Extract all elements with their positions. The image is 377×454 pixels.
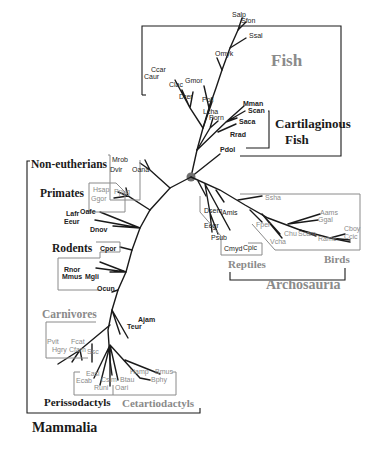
taxon-label: Saca [239,118,255,125]
taxon-label: Mgli [85,273,99,281]
murid-branch [96,262,126,272]
taxon-label: Ocun [97,285,115,292]
taxon-label: Vcha [270,238,286,245]
taxon-label: Gmor [185,77,203,84]
group-label-cartilaginous: Cartilaginous [275,116,351,131]
taxon-label: Ppyg [114,188,130,196]
taxon-label: Mmus [62,273,82,280]
group-label-carnivores: Carnivores [42,308,97,320]
taxon-label: Hgry [52,346,67,354]
taxon-label: Ggal [318,216,333,224]
taxon-label: Rame [318,235,337,242]
group-label-cetartiodactyls: Cetartiodactyls [122,397,195,409]
ssha-branch [238,196,262,200]
taxon-label: Ccar [151,66,166,73]
taxon-label: Scam [298,230,316,237]
taxon-label: Cfam [69,346,86,353]
taxon-label: Cpor [100,245,117,253]
taxon-label: Fper [256,221,271,229]
non-eutherian-branch [140,160,170,188]
taxon-label: Eegr [204,222,219,230]
cartilaginous-bracket [246,111,269,148]
taxon-label: Bphy [151,376,167,384]
taxon-label: Cboy [344,225,361,233]
taxon-label: Pvit [47,338,59,345]
taxon-label: Porn [209,114,224,121]
taxon-label: Rnor [64,266,81,273]
taxon-label: Mrob [112,156,128,163]
cpor-branch [120,247,132,250]
taxon-label: Csim [101,376,117,383]
taxon-label: Clac [169,81,184,88]
taxon-label: Dsem [204,207,222,214]
taxon-label: Drer [179,93,193,100]
phylogenetic-tree: Fish Cartilaginous Fish Salp Sfon Ssal O… [0,0,377,454]
taxon-label: Amis [222,209,238,216]
taxon-label: Cmyd [224,245,242,253]
group-label-fish: Fish [271,51,303,70]
taxon-label: Hamp [130,368,149,376]
taxon-label: Bmus [155,368,173,375]
group-label-rodents: Rodents [52,242,93,254]
taxon-label: Pdol [220,146,235,153]
group-label-archosauria: Archosauria [266,277,340,292]
taxon-label: Caur [144,73,160,80]
taxon-label: Mman [243,100,263,107]
taxon-label: Dnov [90,226,108,233]
taxon-label: Teur [127,323,142,330]
taxon-label: Ecab [76,377,92,384]
taxon-label: Btau [120,376,135,383]
mammal-stem [108,177,191,375]
taxon-label: Dvir [110,166,123,173]
group-label-cartilaginous-fish: Fish [285,132,310,147]
taxon-label: Easi [86,370,100,377]
taxon-label: Runi [94,384,109,391]
taxon-label: Oana [132,166,149,173]
taxon-label: Scan [248,107,265,114]
taxon-label: Ggor [91,195,107,203]
group-label-perissodactyls: Perissodactyls [44,396,111,408]
taxon-label: Chu [284,230,297,237]
omyk-branch [217,58,222,70]
group-label-birds: Birds [324,253,350,265]
taxon-label: Ccic [344,233,358,240]
taxon-label: Cpic [243,244,258,252]
taxon-label: Rrad [230,131,246,138]
taxon-label: Oafe [80,208,96,215]
taxon-label: Eeur [64,218,80,225]
taxon-label: Ssal [249,32,263,39]
taxon-label: Ssha [265,194,281,201]
taxon-label: Ssc [87,348,99,355]
group-label-primates: Primates [40,187,85,199]
taxon-label: Omyk [215,50,234,58]
taxon-label: Sfon [241,17,256,24]
taxon-label: Oari [115,384,129,391]
taxon-label: Poli [202,96,214,103]
taxon-label: Aams [320,209,338,216]
group-label-non-eutherians: Non-eutherians [31,158,108,170]
taxon-label: Psub [211,234,227,241]
group-label-reptiles: Reptiles [228,258,267,270]
group-label-mammalia: Mammalia [32,420,97,435]
taxon-label: Hsap [93,186,109,194]
taxon-label: Lafr [66,210,80,217]
taxon-label: Fcat [71,338,85,345]
ajam-teur-branch [112,310,128,338]
